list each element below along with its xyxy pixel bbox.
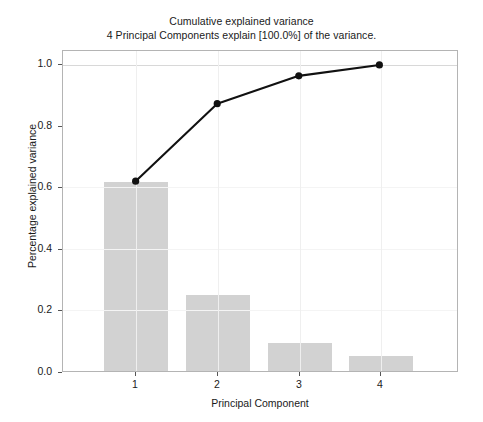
y-axis-title: Percentage explained variance — [26, 46, 38, 346]
y-tick-label-4: 0.8 — [12, 119, 52, 131]
x-tick-mark-3 — [380, 372, 381, 376]
x-tick-mark-0 — [135, 372, 136, 376]
cumulative-point-4 — [376, 61, 383, 68]
chart-subtitle: 4 Principal Components explain [100.0%] … — [0, 28, 483, 42]
pca-scree-chart: Cumulative explained variance 4 Principa… — [0, 0, 483, 422]
x-axis-title: Principal Component — [62, 397, 458, 409]
y-tick-label-1: 0.2 — [12, 303, 52, 315]
x-tick-label-2: 3 — [284, 378, 314, 390]
y-tick-label-3: 0.6 — [12, 180, 52, 192]
plot-area — [62, 50, 458, 372]
x-tick-label-1: 2 — [202, 378, 232, 390]
x-tick-mark-1 — [217, 372, 218, 376]
x-tick-label-3: 4 — [365, 378, 395, 390]
cumulative-point-1 — [132, 178, 139, 185]
y-tick-label-0: 0.0 — [12, 365, 52, 377]
x-tick-label-0: 1 — [120, 378, 150, 390]
cumulative-line — [136, 65, 380, 181]
y-tick-label-2: 0.4 — [12, 242, 52, 254]
cumulative-point-2 — [214, 100, 221, 107]
y-tick-label-5: 1.0 — [12, 57, 52, 69]
chart-title-block: Cumulative explained variance 4 Principa… — [0, 14, 483, 42]
y-tick-mark-0 — [58, 372, 62, 373]
chart-title: Cumulative explained variance — [0, 14, 483, 28]
cumulative-point-3 — [295, 72, 302, 79]
x-tick-mark-2 — [299, 372, 300, 376]
cumulative-line-series — [63, 51, 457, 371]
